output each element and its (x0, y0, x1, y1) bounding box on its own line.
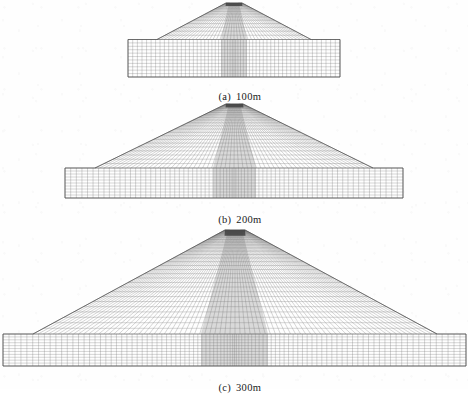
mesh-diagram-c (0, 222, 468, 370)
embankment-mesh (157, 3, 311, 40)
mesh-panel-b (0, 96, 468, 202)
foundation-mesh (3, 334, 466, 366)
embankment-mesh (33, 230, 437, 334)
mesh-panel-a (0, 0, 468, 82)
mesh-group (65, 104, 403, 198)
foundation-mesh (65, 168, 403, 198)
mesh-diagram-a (0, 0, 468, 82)
mesh-panel-c (0, 222, 468, 370)
mesh-group (3, 230, 466, 366)
mesh-group (128, 3, 340, 77)
crest-cap (226, 3, 243, 6)
mesh-diagram-b (0, 96, 468, 202)
caption-c-label: (c) (219, 382, 232, 393)
crest-cap (225, 230, 246, 236)
foundation-mesh (128, 40, 340, 78)
crest-cap (226, 104, 244, 108)
caption-c: (c)300m (0, 371, 468, 398)
caption-c-value: 300m (236, 382, 261, 393)
